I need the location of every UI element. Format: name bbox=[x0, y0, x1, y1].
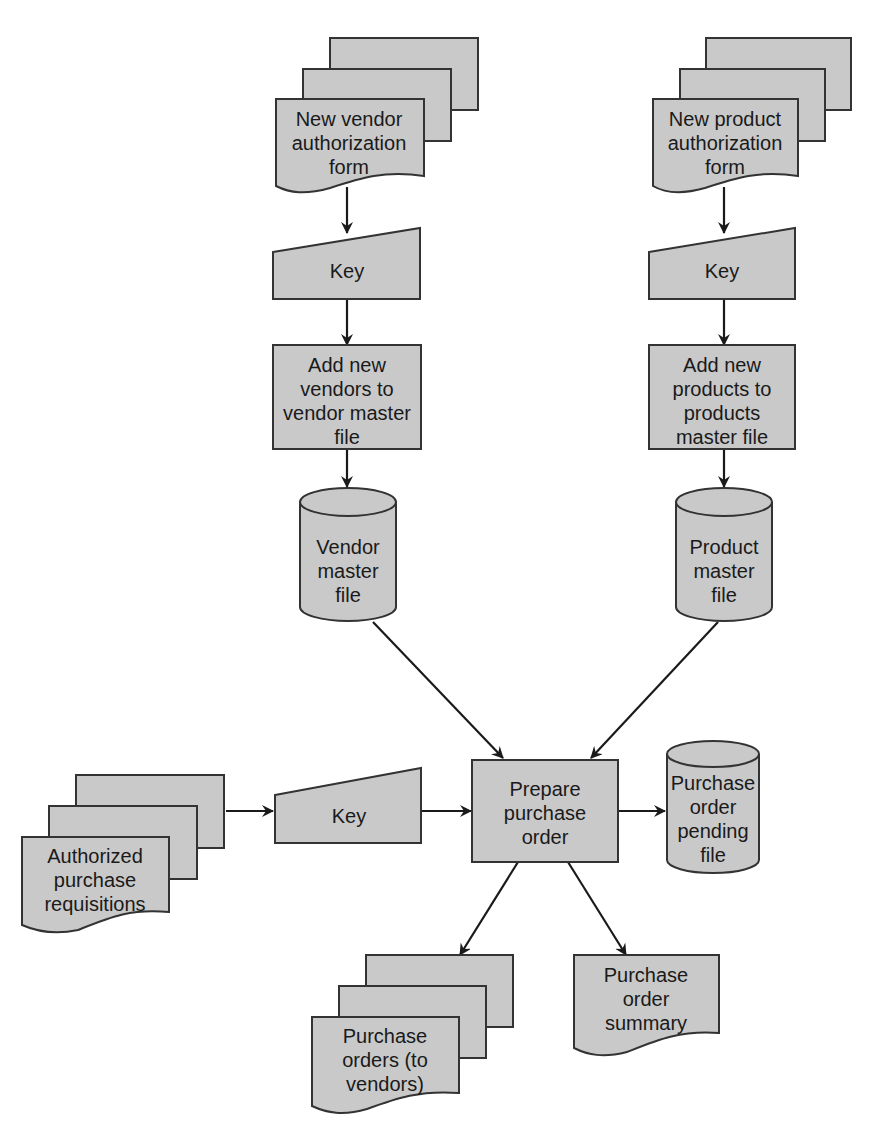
node-label: Add new bbox=[308, 354, 386, 376]
edge-product-master-to-prepare bbox=[591, 622, 718, 758]
node-label: order bbox=[690, 796, 737, 818]
node-label: form bbox=[329, 156, 369, 178]
node-label: Authorized bbox=[47, 845, 143, 867]
node-label: authorization bbox=[292, 132, 407, 154]
node-label: Purchase bbox=[343, 1025, 428, 1047]
node-label: Purchase bbox=[604, 964, 689, 986]
node-label: master bbox=[693, 560, 754, 582]
node-label: master bbox=[317, 560, 378, 582]
node-label: orders (to bbox=[342, 1049, 428, 1071]
product-authorization-form: New product authorization form bbox=[653, 38, 851, 192]
node-label: authorization bbox=[668, 132, 783, 154]
node-label: Key bbox=[332, 805, 366, 827]
node-label: New vendor bbox=[296, 108, 403, 130]
node-label: requisitions bbox=[44, 893, 145, 915]
add-new-products-process: Add new products to products master file bbox=[649, 345, 795, 449]
node-label: New product bbox=[669, 108, 782, 130]
node-label: purchase bbox=[54, 869, 136, 891]
node-label: purchase bbox=[504, 802, 586, 824]
product-master-file: Product master file bbox=[676, 488, 772, 621]
vendor-master-file: Vendor master file bbox=[300, 488, 396, 621]
node-label: Key bbox=[330, 260, 364, 282]
purchase-orders-to-vendors: Purchase orders (to vendors) bbox=[312, 955, 513, 1113]
node-label: file bbox=[711, 584, 737, 606]
vendor-authorization-form: New vendor authorization form bbox=[276, 38, 478, 192]
node-label: file bbox=[700, 844, 726, 866]
node-label: Purchase bbox=[671, 772, 756, 794]
vendor-key-input: Key bbox=[273, 228, 420, 299]
node-label: vendors to bbox=[300, 378, 393, 400]
add-new-vendors-process: Add new vendors to vendor master file bbox=[273, 345, 421, 449]
edge-prepare-to-orders bbox=[460, 862, 518, 955]
edge-prepare-to-summary bbox=[568, 862, 626, 955]
purchase-order-pending-file: Purchase order pending file bbox=[667, 741, 759, 873]
purchasing-flowchart: New vendor authorization form Key Add ne… bbox=[0, 0, 874, 1143]
node-label: pending bbox=[677, 820, 748, 842]
product-key-input: Key bbox=[649, 228, 795, 299]
node-label: order bbox=[522, 826, 569, 848]
authorized-purchase-requisitions: Authorized purchase requisitions bbox=[22, 775, 224, 932]
requisition-key-input: Key bbox=[275, 768, 421, 843]
node-label: Add new bbox=[683, 354, 761, 376]
node-label: Product bbox=[690, 536, 759, 558]
node-label: products bbox=[684, 402, 761, 424]
node-label: form bbox=[705, 156, 745, 178]
node-label: master file bbox=[676, 426, 768, 448]
node-label: Key bbox=[705, 260, 739, 282]
purchase-order-summary: Purchase order summary bbox=[574, 955, 719, 1055]
node-label: file bbox=[334, 426, 360, 448]
node-label: products to bbox=[673, 378, 772, 400]
node-label: file bbox=[335, 584, 361, 606]
node-label: summary bbox=[605, 1012, 687, 1034]
node-label: vendor master bbox=[283, 402, 411, 424]
edge-vendor-master-to-prepare bbox=[373, 622, 503, 758]
node-label: Vendor bbox=[316, 536, 380, 558]
prepare-purchase-order-process: Prepare purchase order bbox=[472, 760, 618, 862]
node-label: order bbox=[623, 988, 670, 1010]
node-label: Prepare bbox=[509, 778, 580, 800]
node-label: vendors) bbox=[346, 1073, 424, 1095]
